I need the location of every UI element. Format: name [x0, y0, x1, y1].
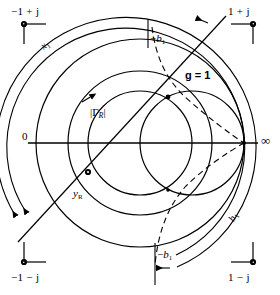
conductance-circle-label: g = 1: [185, 70, 210, 81]
intersection-marker-lower: [166, 188, 170, 192]
corner-label-bottom-left: −1 − j: [11, 272, 39, 283]
gamma-close: |: [103, 106, 105, 118]
admittance-point-label: yR: [73, 188, 83, 199]
yR-sub: R: [78, 193, 83, 201]
smith-chart-figure: −1 + j 1 + j −1 − j 1 − j 0 ∞ x1 b1 +b1 …: [0, 0, 280, 295]
corner-label-top-left: −1 + j: [11, 6, 39, 17]
corner-label-top-right: 1 + j: [228, 6, 250, 17]
constant-resistance-arc-dashed: [152, 27, 244, 143]
plus-b1-base: b: [156, 32, 162, 44]
minus-b1-base: b: [163, 248, 169, 260]
yR-point-marker: [85, 169, 91, 175]
minus-b1-label: −b1: [157, 249, 172, 260]
infinity-point-marker: [242, 141, 246, 145]
gamma-sub: R: [99, 111, 104, 120]
gamma-open: |Γ: [90, 106, 99, 118]
plus-b1-label: +b1: [150, 33, 165, 44]
minus-b1-sub: 1: [169, 254, 173, 262]
outer-scale-arc-outer: [0, 17, 256, 267]
arc-direction-arrow-top: [196, 18, 208, 23]
axis-infinity-label: ∞: [261, 134, 270, 147]
corner-marker-bottom-right: [231, 242, 256, 265]
reflection-magnitude-label: |ΓR|: [90, 107, 106, 118]
intersection-marker-upper: [166, 95, 171, 100]
corner-label-bottom-right: 1 − j: [228, 272, 250, 283]
plus-b1-sub: 1: [162, 38, 166, 46]
corner-marker-bottom-left: [21, 242, 46, 265]
corner-marker-top-right: [231, 21, 256, 44]
axis-origin-label: 0: [22, 131, 28, 142]
